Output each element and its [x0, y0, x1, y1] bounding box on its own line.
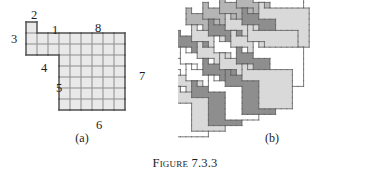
- polyomino-cell: [92, 88, 103, 99]
- polyomino-cell: [26, 22, 37, 33]
- polyomino-cell: [26, 33, 37, 44]
- polyomino-cell: [81, 88, 92, 99]
- edge-label-6: 6: [96, 119, 102, 132]
- polyomino-cell: [114, 33, 125, 44]
- polyomino-cell: [114, 77, 125, 88]
- polyomino-cell: [103, 33, 114, 44]
- polyomino-cell: [81, 44, 92, 55]
- polyomino-cell: [114, 88, 125, 99]
- polyomino-cell: [70, 88, 81, 99]
- polyomino-cell: [70, 66, 81, 77]
- polyomino-cell: [114, 44, 125, 55]
- edge-label-4: 4: [41, 62, 47, 75]
- polyomino-cell: [114, 55, 125, 66]
- figure-caption: Figure 7.3.3: [0, 156, 370, 171]
- polyomino-cell: [81, 99, 92, 110]
- figure-caption-number: 7.3.3: [191, 156, 217, 170]
- figure-panel-b: [178, 0, 370, 150]
- polyomino-cell: [81, 66, 92, 77]
- figure-panel-a: 12345678: [0, 0, 180, 150]
- polyomino-cell: [81, 33, 92, 44]
- edge-label-8: 8: [95, 22, 101, 35]
- polyomino-cell: [103, 44, 114, 55]
- edge-label-2: 2: [31, 9, 37, 22]
- polyomino-cell: [103, 88, 114, 99]
- edge-label-7: 7: [139, 70, 145, 83]
- polyomino-cell: [92, 99, 103, 110]
- tiling-tile-layer: [178, 0, 309, 137]
- polyomino-cell: [103, 99, 114, 110]
- polyomino-cell: [114, 66, 125, 77]
- polyomino-cell: [92, 77, 103, 88]
- polyomino-cell: [92, 55, 103, 66]
- polyomino-cell: [81, 55, 92, 66]
- polyomino-cell: [114, 99, 125, 110]
- edge-label-3: 3: [11, 33, 17, 46]
- polyomino-cell: [59, 33, 70, 44]
- polyomino-diagram: [0, 0, 180, 150]
- polyomino-cell: [26, 44, 37, 55]
- polyomino-cell: [70, 55, 81, 66]
- figure-caption-label: Figure: [153, 156, 189, 170]
- subcaption-b: (b): [252, 131, 292, 146]
- polyomino-cell: [59, 99, 70, 110]
- polyomino-cell: [59, 66, 70, 77]
- polyomino-cell: [37, 44, 48, 55]
- polyomino-cell: [103, 55, 114, 66]
- tiling-diagram: [178, 0, 370, 150]
- polyomino-cell: [37, 33, 48, 44]
- polyomino-cell: [70, 44, 81, 55]
- polyomino-cell: [92, 44, 103, 55]
- polyomino-cell: [70, 99, 81, 110]
- polyomino-cell: [70, 77, 81, 88]
- polyomino-cell: [103, 66, 114, 77]
- polyomino-cell: [81, 77, 92, 88]
- subcaption-a: (a): [62, 131, 102, 146]
- polyomino-cell: [92, 66, 103, 77]
- polyomino-cell: [70, 33, 81, 44]
- polyomino-cell: [59, 55, 70, 66]
- polyomino-cell: [48, 44, 59, 55]
- figure-page: 12345678 (a) (b) Figure 7.3.3: [0, 0, 370, 184]
- polyomino-cell: [103, 77, 114, 88]
- polyomino-cell: [59, 44, 70, 55]
- edge-label-1: 1: [52, 24, 58, 37]
- edge-label-5: 5: [56, 82, 62, 95]
